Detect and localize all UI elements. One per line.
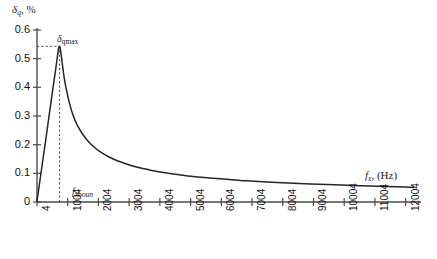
- y-tick-label: 0: [0, 195, 30, 207]
- y-tick-label: 0.4: [0, 80, 30, 92]
- x-axis-title: fx, (Hz): [365, 169, 397, 183]
- y-axis-title-unit: , %: [21, 3, 36, 15]
- peak-annotation-label: δqmax: [57, 33, 78, 46]
- x-tick-label: 10004: [348, 183, 359, 211]
- x-tick-label: 2004: [102, 189, 113, 211]
- x-tick-label: 11004: [379, 184, 390, 211]
- series-line: [37, 46, 414, 200]
- x-tick-label: 3004: [133, 189, 144, 211]
- y-tick-label: 0.3: [0, 109, 30, 121]
- x-tick-label: 7004: [256, 189, 267, 211]
- x-tick-label: 12004: [410, 183, 421, 211]
- x-tick-label: 9004: [317, 189, 328, 211]
- y-axis-title: δq, %: [12, 3, 36, 17]
- x-tick-label: 1004: [72, 189, 83, 211]
- x-tick-label: 4004: [164, 189, 175, 211]
- peak-annotation-subscript: qmax: [62, 37, 79, 46]
- x-tick-label: 5004: [195, 189, 206, 211]
- y-tick-label: 0.2: [0, 138, 30, 150]
- y-tick-label: 0.6: [0, 23, 30, 35]
- y-tick-label: 0.1: [0, 166, 30, 178]
- y-tick-label: 0.5: [0, 52, 30, 64]
- x-tick-label: 8004: [287, 189, 298, 211]
- x-tick-label: 6004: [225, 189, 236, 211]
- figure-quantization-error-vs-frequency: δq, % fx, (Hz) δqmax fxboun 00.10.20.30.…: [0, 0, 437, 259]
- x-axis-title-unit: , (Hz): [371, 169, 397, 181]
- data-curve-layer: [37, 46, 414, 200]
- x-tick-label: 4: [41, 205, 52, 211]
